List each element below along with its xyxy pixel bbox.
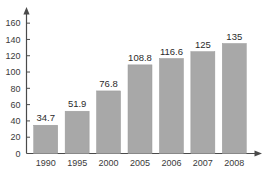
bar — [34, 125, 58, 153]
y-axis-tick-label: 60 — [10, 100, 20, 110]
x-axis-category-label: 1995 — [67, 158, 87, 168]
y-axis-tick-label: 140 — [5, 35, 20, 45]
y-axis-tick-label: 0 — [15, 149, 20, 159]
y-axis-tick-label: 100 — [5, 67, 20, 77]
y-axis-tick-label: 160 — [5, 18, 20, 28]
chart-canvas: 020406080100120140160 34.751.976.8108.81… — [0, 0, 268, 175]
bar-value-label: 34.7 — [36, 112, 55, 123]
x-axis-category-label: 2007 — [193, 158, 213, 168]
bar — [159, 59, 183, 154]
x-axis-category-label: 2006 — [161, 158, 181, 168]
x-axis-category-label: 2000 — [99, 158, 119, 168]
bar-value-label: 51.9 — [68, 98, 87, 109]
bar-chart: 020406080100120140160 34.751.976.8108.81… — [0, 0, 268, 175]
x-axis-category-label: 1990 — [36, 158, 56, 168]
y-axis-tick-label: 80 — [10, 84, 20, 94]
bar — [128, 65, 152, 154]
bar-value-label: 135 — [226, 31, 242, 42]
bar-value-label: 116.6 — [160, 46, 183, 57]
bar-value-label: 125 — [195, 39, 211, 50]
bar-value-label: 108.8 — [128, 52, 152, 63]
bar-value-label: 76.8 — [99, 78, 118, 89]
x-axis-category-label: 2008 — [224, 158, 244, 168]
bar — [191, 52, 215, 154]
y-axis-tick-label: 20 — [10, 132, 20, 142]
y-axis-tick-label: 40 — [10, 116, 20, 126]
y-axis-tick-label: 120 — [5, 51, 20, 61]
bar — [222, 44, 246, 154]
x-axis-category-label: 2005 — [130, 158, 150, 168]
bar — [97, 91, 121, 154]
bar — [65, 111, 89, 153]
